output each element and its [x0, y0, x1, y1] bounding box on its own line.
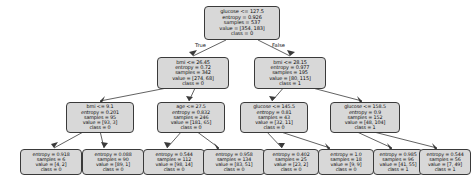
tree-leaf-7[interactable]: entropy = 0.985 samples = 96 value = [41… [373, 149, 423, 175]
tree-leaf-8[interactable]: entropy = 0.544 samples = 56 value = [7,… [419, 149, 471, 175]
node-class: class = 1 [435, 167, 456, 172]
tree-leaf-3[interactable]: entropy = 0.544 samples = 112 value = [9… [143, 149, 205, 175]
node-class: class = 1 [354, 125, 375, 130]
tree-node-root[interactable]: glucose <= 127.5 entropy = 0.926 samples… [204, 6, 280, 40]
tree-node-left[interactable]: bmi <= 26.45 entropy = 0.72 samples = 34… [157, 57, 229, 89]
node-class: class = 0 [263, 125, 284, 130]
edge-label-true: True [195, 42, 206, 48]
edge-label-false: False [272, 42, 285, 48]
node-class: class = 0 [41, 167, 62, 172]
tree-leaf-2[interactable]: entropy = 0.088 samples = 90 value = [89… [82, 149, 144, 175]
node-class: class = 0 [231, 31, 253, 37]
tree-node-left-right[interactable]: age <= 27.5 entropy = 0.832 samples = 24… [157, 102, 225, 133]
node-class: class = 1 [388, 167, 409, 172]
tree-node-right-right[interactable]: glucose <= 158.5 entropy = 0.9 samples =… [330, 102, 400, 133]
node-class: class = 0 [224, 167, 245, 172]
decision-tree-diagram: True False glucose <= 127.5 entropy = 0.… [0, 0, 473, 194]
tree-leaf-5[interactable]: entropy = 0.402 samples = 25 value = [23… [263, 149, 319, 175]
tree-node-right[interactable]: bmi <= 28.15 entropy = 0.977 samples = 1… [254, 57, 326, 89]
tree-leaf-1[interactable]: entropy = 0.918 samples = 6 value = [4, … [20, 149, 82, 175]
node-class: class = 0 [182, 81, 204, 86]
node-class: class = 0 [103, 167, 124, 172]
node-class: class = 0 [281, 167, 302, 172]
tree-leaf-4[interactable]: entropy = 0.958 samples = 134 value = [8… [203, 149, 265, 175]
tree-leaf-6[interactable]: entropy = 1.0 samples = 18 value = [9, 9… [318, 149, 374, 175]
tree-node-right-left[interactable]: glucose <= 145.5 entropy = 0.81 samples … [240, 102, 308, 133]
node-class: class = 0 [89, 125, 110, 130]
tree-node-left-left[interactable]: bmi <= 9.1 entropy = 0.201 samples = 95 … [66, 102, 134, 133]
node-class: class = 0 [180, 125, 201, 130]
node-class: class = 0 [336, 167, 357, 172]
node-class: class = 0 [164, 167, 185, 172]
node-class: class = 1 [279, 81, 301, 86]
